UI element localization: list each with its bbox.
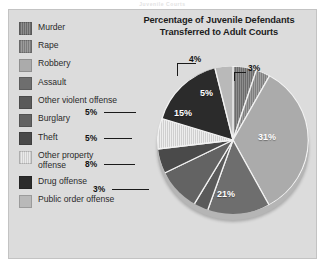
leader-line-public-order-h <box>177 63 196 64</box>
callout-value-rape: 3% <box>248 63 260 73</box>
callout-value-other-property-offense: 5% <box>85 107 97 117</box>
chart-page: Juvenile Courts Percentage of Juvenile D… <box>0 0 325 274</box>
chart-panel: Percentage of Juvenile Defendants Transf… <box>8 9 317 259</box>
legend-swatch-theft <box>19 132 32 145</box>
legend-swatch-public-order-offense <box>19 195 32 208</box>
legend-label-other-violent-offense: Other violent offense <box>38 96 117 106</box>
pie-chart: 5% 31% 21% 15% 4% 3% 5% 5% 8% 3% <box>155 56 315 236</box>
legend-swatch-murder <box>19 22 32 35</box>
leader-line-burglary-h <box>104 164 135 165</box>
pie-disc: 5% 31% 21% 15% <box>157 66 309 214</box>
callout-value-burglary: 8% <box>85 159 97 169</box>
legend-item-other-violent-offense[interactable]: Other violent offense <box>19 96 119 109</box>
legend-swatch-rape <box>19 40 32 53</box>
leader-line-theft-h <box>104 138 132 139</box>
legend-swatch-assault <box>19 77 32 90</box>
legend-label-rape: Rape <box>38 40 59 50</box>
legend-swatch-robbery <box>19 59 32 72</box>
leader-line-rape-h <box>234 72 246 73</box>
legend-label-burglary: Burglary <box>38 114 70 124</box>
legend-label-assault: Assault <box>38 77 66 87</box>
callout-value-other-violent-offense: 3% <box>93 184 105 194</box>
legend-swatch-other-violent-offense <box>19 96 32 109</box>
callout-value-theft: 5% <box>85 133 97 143</box>
leader-line-rape-v <box>234 72 235 81</box>
legend-item-public-order-offense[interactable]: Public order offense <box>19 195 119 208</box>
legend-item-assault[interactable]: Assault <box>19 77 119 90</box>
slice-value-murder: 5% <box>200 88 213 98</box>
legend-label-theft: Theft <box>38 132 58 142</box>
legend-label-robbery: Robbery <box>38 59 70 69</box>
slice-value-assault: 21% <box>217 189 235 199</box>
slice-value-robbery: 31% <box>258 132 276 142</box>
legend-label-murder: Murder <box>38 22 65 32</box>
legend-item-murder[interactable]: Murder <box>19 22 119 35</box>
legend-swatch-other-property-offense <box>19 151 32 164</box>
legend-item-burglary[interactable]: Burglary <box>19 114 119 127</box>
legend-label-drug-offense: Drug offense <box>38 176 87 186</box>
leader-line-public-order-v <box>177 63 178 76</box>
leader-line-other-violent-h <box>112 189 149 190</box>
chart-title-line-2: Transferred to Adult Courts <box>124 27 314 39</box>
chart-title: Percentage of Juvenile Defendants Transf… <box>124 15 314 38</box>
legend-swatch-drug-offense <box>19 176 32 189</box>
page-header-faint-text: Juvenile Courts <box>0 0 325 8</box>
chart-title-line-1: Percentage of Juvenile Defendants <box>124 15 314 27</box>
leader-line-other-property-h <box>104 112 136 113</box>
legend-label-public-order-offense: Public order offense <box>38 195 114 205</box>
slice-value-drug-offense: 15% <box>174 108 192 118</box>
legend-label-other-property-offense: Other property offense <box>38 151 119 171</box>
legend-item-other-property-offense[interactable]: Other property offense <box>19 151 119 171</box>
legend-item-robbery[interactable]: Robbery <box>19 59 119 72</box>
legend-swatch-burglary <box>19 114 32 127</box>
legend-item-rape[interactable]: Rape <box>19 40 119 53</box>
